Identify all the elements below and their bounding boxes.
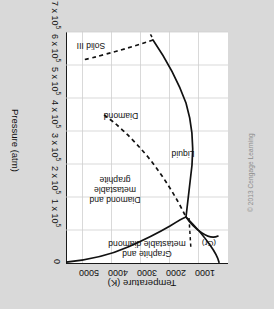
region-label-graphite-metastable-diamond: Graphite and metastable diamond [92,239,202,259]
plot-area [66,32,228,264]
x-axis-tick-5000: 5000 [71,268,107,278]
y-axis-tick-1e5: 1 x 105 [50,199,62,227]
region-label-solid-iii: Solid III [68,41,114,51]
y-axis-tick-4e5: 4 x 105 [50,100,62,128]
region-label-line-1: Graphite and [92,249,202,259]
y-tick-2-exp: 5 [55,191,62,195]
y-tick-5-mult: x 10 [50,72,60,92]
y-axis-tick-6e5: 6 x 105 [50,34,62,62]
phase-diagram-svg [66,31,228,263]
gridlines [66,31,228,263]
curve-solid-iii-lower-dashed [149,32,152,37]
figure-page: © 2013 Cengage Learning Temperature (K) … [0,0,274,309]
region-label-line-2: metastable diamond [92,239,202,249]
phase-diagram-figure: Temperature (K) 1000 2000 3000 4000 5000… [0,0,274,309]
y-tick-4-exp: 5 [55,125,62,129]
y-tick-2-mult: x 10 [50,171,60,191]
y-tick-3-exp: 5 [55,158,62,162]
x-axis-title: Temperature (K) [82,278,202,289]
y-tick-4-mult: x 10 [50,105,60,125]
y-axis-tick-5e5: 5 x 105 [50,67,62,95]
y-tick-7-exp: 5 [55,26,62,30]
region-label-diamond: Diamond [96,111,146,121]
region-label-line-1: Diamond and [72,195,158,205]
y-axis-tick-3e5: 3 x 105 [50,133,62,161]
y-tick-0-value: 0 [52,259,62,264]
region-label-diamond-metastable-graphite: Diamond and metastable graphite [72,175,158,205]
region-label-line-2: metastable [72,185,158,195]
curve-diamond-liquid-boundary [153,40,193,217]
y-axis-title: Pressure (atm) [10,109,21,172]
region-label-liquid: Liquid [160,149,206,159]
y-axis-tick-2e5: 2 x 105 [50,166,62,194]
y-tick-3-mult: x 10 [50,138,60,158]
y-tick-6-exp: 5 [55,59,62,63]
y-tick-7-mult: x 10 [50,6,60,26]
region-label-line-3: graphite [72,175,158,185]
y-tick-1-mult: x 10 [50,204,60,224]
y-tick-1-exp: 5 [55,224,62,228]
y-axis-tick-7e5: 7 x 105 [50,1,62,29]
y-tick-5-exp: 5 [55,92,62,96]
region-label-gr: (Gr) [200,238,218,248]
y-tick-6-mult: x 10 [50,39,60,59]
y-axis-tick-0: 0 [52,259,62,264]
